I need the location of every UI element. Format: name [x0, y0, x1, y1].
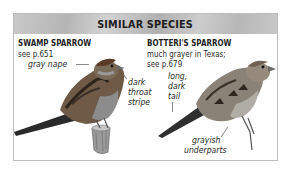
botteris-sparrow-illustration: [0, 0, 288, 172]
